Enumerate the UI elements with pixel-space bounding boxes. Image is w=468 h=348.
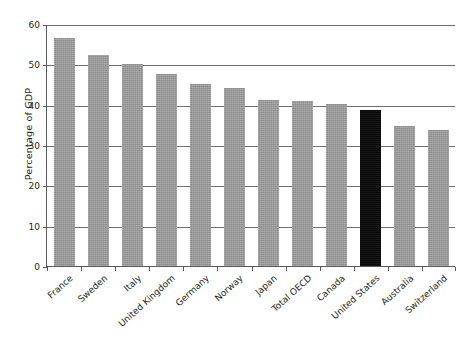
x-axis-label-norway: Norway <box>213 273 245 303</box>
x-tick-mark-3 <box>149 267 150 271</box>
x-axis-label-italy: Italy <box>122 273 143 294</box>
bar-chart: Percentage of GDP 0102030405060 FranceSw… <box>0 0 468 348</box>
x-axis-label-germany: Germany <box>174 273 211 308</box>
x-axis-label-france: France <box>46 273 75 300</box>
bar-united-states <box>360 110 381 266</box>
y-tick-mark-40 <box>43 106 47 107</box>
bar-italy <box>122 64 143 266</box>
y-tick-label-40: 40 <box>29 101 40 111</box>
bar-sweden <box>88 55 109 266</box>
bar-switzerland <box>428 130 449 266</box>
y-tick-label-30: 30 <box>29 141 40 151</box>
bar-japan <box>258 100 279 266</box>
bar-canada <box>326 104 347 266</box>
x-axis-label-canada: Canada <box>315 273 347 303</box>
x-tick-mark-6 <box>252 267 253 271</box>
x-tick-mark-0 <box>47 267 48 271</box>
y-tick-label-50: 50 <box>29 60 40 70</box>
plot-area: 0102030405060 <box>46 25 455 267</box>
bar-germany <box>190 84 211 266</box>
x-tick-mark-10 <box>388 267 389 271</box>
x-tick-mark-end <box>455 267 456 271</box>
bar-united-kingdom <box>156 74 177 266</box>
x-tick-mark-5 <box>217 267 218 271</box>
y-tick-mark-60 <box>43 25 47 26</box>
bar-norway <box>224 88 245 266</box>
y-tick-label-10: 10 <box>29 222 40 232</box>
bar-total-oecd <box>292 101 313 266</box>
bar-australia <box>394 126 415 266</box>
y-tick-label-0: 0 <box>34 262 40 272</box>
x-tick-mark-1 <box>81 267 82 271</box>
x-tick-mark-2 <box>115 267 116 271</box>
bar-france <box>54 38 75 266</box>
y-tick-label-20: 20 <box>29 181 40 191</box>
x-tick-mark-7 <box>286 267 287 271</box>
gridline-60 <box>47 25 455 26</box>
y-tick-mark-10 <box>43 227 47 228</box>
y-tick-mark-30 <box>43 146 47 147</box>
x-axis-label-sweden: Sweden <box>76 273 109 304</box>
x-axis-label-japan: Japan <box>254 273 279 297</box>
x-tick-mark-11 <box>422 267 423 271</box>
y-tick-mark-20 <box>43 186 47 187</box>
x-tick-mark-9 <box>354 267 355 271</box>
x-axis-baseline <box>47 266 455 267</box>
y-tick-label-60: 60 <box>29 20 40 30</box>
x-tick-mark-8 <box>320 267 321 271</box>
y-tick-mark-50 <box>43 65 47 66</box>
x-tick-mark-4 <box>183 267 184 271</box>
